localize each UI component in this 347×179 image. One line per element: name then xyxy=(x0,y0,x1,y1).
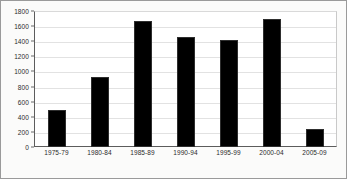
bar[interactable] xyxy=(134,21,152,147)
bar-slot xyxy=(250,11,293,147)
bar-series xyxy=(35,11,336,147)
bar-slot xyxy=(164,11,207,147)
bar[interactable] xyxy=(220,40,238,147)
bar-slot xyxy=(35,11,78,147)
bar[interactable] xyxy=(263,19,281,147)
y-tick-label: 1600 xyxy=(14,23,29,30)
y-tick-label: 800 xyxy=(18,83,29,90)
y-tick-label: 1000 xyxy=(14,68,29,75)
x-tick-label: 1985-89 xyxy=(121,149,164,157)
x-tick-label: 1995-99 xyxy=(207,149,250,157)
bar-slot xyxy=(207,11,250,147)
y-tick-label: 200 xyxy=(18,128,29,135)
x-tick-label: 1990-94 xyxy=(164,149,207,157)
bar-slot xyxy=(293,11,336,147)
x-tick-label: 2005-09 xyxy=(293,149,336,157)
bar-slot xyxy=(78,11,121,147)
x-axis: 1975-79 1980-84 1985-89 1990-94 1995-99 … xyxy=(35,149,336,157)
bar-chart-figure: 1800 1600 1400 1200 1000 800 600 400 200… xyxy=(0,0,347,179)
y-tick-label: 1400 xyxy=(14,38,29,45)
x-tick-label: 1980-84 xyxy=(78,149,121,157)
bar[interactable] xyxy=(48,110,66,147)
y-axis: 1800 1600 1400 1200 1000 800 600 400 200… xyxy=(1,1,32,147)
y-tick-label: 1200 xyxy=(14,53,29,60)
bar[interactable] xyxy=(91,77,109,147)
y-tick-label: 600 xyxy=(18,98,29,105)
y-tick-label: 1800 xyxy=(14,8,29,15)
y-tick-label: 400 xyxy=(18,113,29,120)
x-tick-label: 2000-04 xyxy=(250,149,293,157)
bar-slot xyxy=(121,11,164,147)
x-tick-label: 1975-79 xyxy=(35,149,78,157)
y-tick-label: 0 xyxy=(25,144,29,151)
bar[interactable] xyxy=(177,37,195,147)
bar[interactable] xyxy=(306,129,324,148)
